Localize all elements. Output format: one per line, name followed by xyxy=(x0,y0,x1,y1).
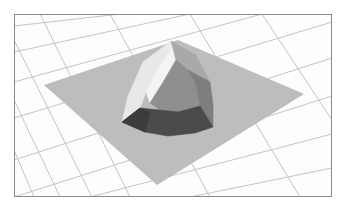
scene-canvas[interactable] xyxy=(0,0,343,205)
3d-viewport[interactable] xyxy=(0,0,343,205)
